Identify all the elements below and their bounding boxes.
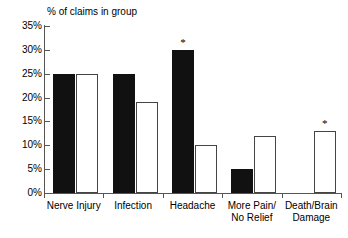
x-separator-tick-5 [341, 193, 342, 198]
y-tick-label-35: 35% [22, 21, 42, 31]
x-separator-tick-4 [282, 193, 283, 198]
x-separator-tick-2 [163, 193, 164, 198]
x-separator-tick-0 [44, 193, 45, 198]
y-tick-label-10: 10% [22, 140, 42, 150]
chart-title: % of claims in group [47, 6, 137, 18]
significance-star-2: * [172, 37, 194, 48]
bar-chart: % of claims in group 0%5%10%15%20%25%30%… [0, 0, 348, 238]
bar-filled-3 [231, 169, 253, 193]
significance-star-4: * [314, 118, 336, 129]
category-label-2: Headache [159, 200, 226, 212]
bar-hollow-0 [76, 74, 98, 193]
x-axis-line [44, 193, 341, 194]
category-label-1: Infection [99, 200, 166, 212]
bar-filled-2 [172, 50, 194, 193]
bar-filled-1 [113, 74, 135, 193]
category-label-4: Death/Brain Damage [278, 200, 345, 223]
y-tick-label-20: 20% [22, 93, 42, 103]
y-tick-label-15: 15% [22, 116, 42, 126]
plot-area: ** [44, 26, 348, 193]
category-label-0: Nerve Injury [40, 200, 107, 212]
y-tick-mark-0 [45, 193, 50, 194]
y-tick-label-0: 0% [28, 188, 42, 198]
bar-filled-0 [53, 74, 75, 193]
bar-hollow-1 [136, 102, 158, 193]
bar-hollow-2 [195, 145, 217, 193]
y-tick-label-5: 5% [28, 164, 42, 174]
category-label-3: More Pain/ No Relief [218, 200, 285, 223]
x-separator-tick-3 [222, 193, 223, 198]
bar-hollow-4 [314, 131, 336, 193]
bar-hollow-3 [254, 136, 276, 193]
y-tick-label-30: 30% [22, 45, 42, 55]
x-separator-tick-1 [103, 193, 104, 198]
y-tick-label-25: 25% [22, 69, 42, 79]
